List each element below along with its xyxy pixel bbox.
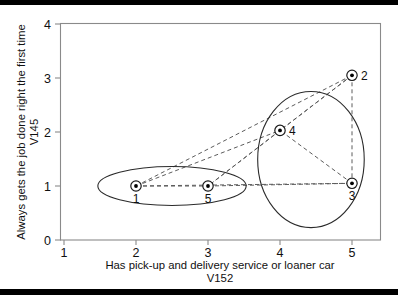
data-point-dot-3 [350, 181, 354, 185]
data-point-label-3: 3 [349, 189, 356, 203]
x-tick-label: 1 [61, 246, 68, 260]
x-axis-tick-labels: 12345 [61, 246, 356, 260]
connection-line-4-5 [208, 130, 280, 186]
data-point-label-2: 2 [361, 69, 368, 83]
x-tick-label: 4 [277, 246, 284, 260]
x-tick-label: 3 [205, 246, 212, 260]
x-tick-label: 2 [133, 246, 140, 260]
data-point-dot-1 [134, 184, 138, 188]
data-point-dot-5 [206, 184, 210, 188]
data-point-label-1: 1 [133, 192, 140, 206]
plot-canvas: 12345 01234 12345 Has pick-up and delive… [0, 0, 398, 295]
connection-line-1-4 [136, 130, 280, 186]
y-tick-label: 3 [44, 72, 51, 86]
y-tick-label: 0 [44, 234, 51, 248]
x-axis-tick-marks [64, 240, 352, 245]
y-tick-label: 1 [44, 180, 51, 194]
x-axis-title: Has pick-up and delivery service or loan… [105, 259, 334, 271]
y-axis-tick-labels: 01234 [44, 18, 51, 248]
y-tick-label: 4 [44, 18, 51, 32]
x-tick-label: 5 [349, 246, 356, 260]
cluster-ellipses-group [98, 91, 364, 227]
data-point-label-4: 4 [289, 124, 296, 138]
x-axis-subtitle: V152 [207, 272, 233, 284]
data-point-dot-4 [278, 128, 282, 132]
data-point-dot-2 [350, 73, 354, 77]
y-axis-subtitle: V145 [28, 119, 40, 145]
plot-frame [61, 24, 381, 241]
cluster-ellipse-right-cluster [258, 91, 365, 227]
y-tick-label: 2 [44, 126, 51, 140]
data-point-label-5: 5 [205, 192, 212, 206]
y-axis-title: Always gets the job done right the first… [15, 24, 27, 239]
scatter-plot-figure: 12345 01234 12345 Has pick-up and delive… [0, 0, 398, 295]
